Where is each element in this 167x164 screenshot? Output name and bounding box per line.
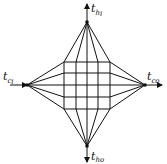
heat-exchanger-diagram: thi tho tci tco [0, 0, 167, 164]
apex-dots [25, 20, 147, 148]
label-bottom: tho [91, 150, 104, 164]
label-left: tci [3, 70, 14, 86]
label-right: tco [147, 70, 160, 85]
fan-lines [27, 22, 145, 146]
label-top: thi [91, 2, 102, 18]
grid [27, 22, 145, 146]
